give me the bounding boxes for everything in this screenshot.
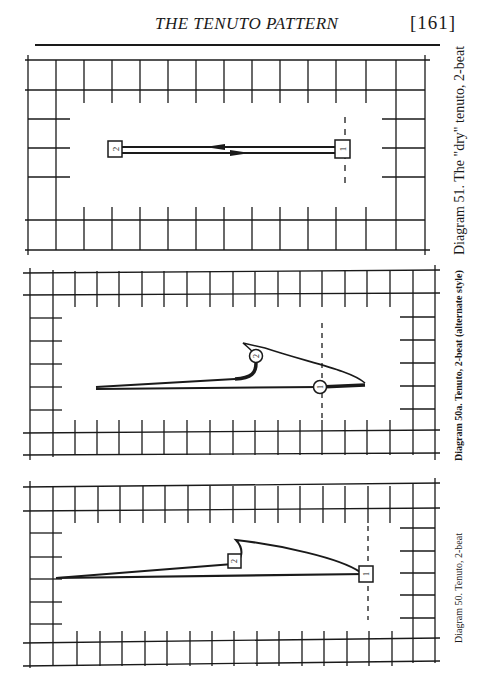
- diagram-51-caption: Diagram 51. The "dry" tenuto, 2-beat: [452, 46, 468, 255]
- diagram-50a-caption: Diagram 50a. Tenuto, 2-beat (alternate s…: [453, 270, 464, 461]
- diagram-50: 2 1 Diagram 50. Tenuto, 2-beat: [20, 478, 445, 668]
- running-title: THE TENUTO PATTERN: [155, 14, 338, 34]
- diagram-50-caption: Diagram 50. Tenuto, 2-beat: [453, 533, 464, 643]
- svg-text:2: 2: [230, 559, 239, 563]
- svg-text:1: 1: [338, 147, 348, 152]
- svg-text:2: 2: [111, 147, 121, 152]
- header-rule: [35, 44, 440, 46]
- svg-text:2: 2: [252, 354, 261, 358]
- diagram-50a: 2 1 Diagram 50a. Tenuto, 2-beat (alterna…: [20, 265, 445, 460]
- page-number: [161]: [410, 12, 456, 34]
- diagram-50a-grid: 2 1: [20, 265, 445, 460]
- page-header: THE TENUTO PATTERN [161]: [0, 0, 477, 48]
- diagram-51-grid: 2 1: [20, 55, 445, 255]
- diagram-50-grid: 2 1: [20, 478, 445, 668]
- svg-text:1: 1: [316, 385, 325, 389]
- svg-text:1: 1: [362, 572, 371, 576]
- diagram-51: 2 1 Diagram 51. The "dry" tenuto, 2-beat: [20, 55, 445, 255]
